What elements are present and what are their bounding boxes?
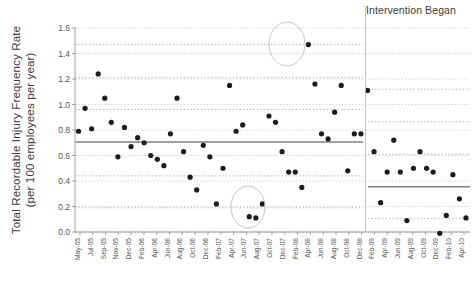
x-tick-label: Aug-08 — [330, 238, 338, 260]
data-point — [266, 113, 271, 118]
y-tick-label: 1.4 — [58, 49, 70, 59]
data-point — [437, 231, 442, 236]
data-point — [227, 83, 232, 88]
y-tick-label: 1.0 — [58, 100, 70, 110]
x-tick-label: Apr-10 — [458, 238, 466, 258]
data-point — [174, 96, 179, 101]
y-tick-label: 0.0 — [58, 227, 70, 237]
data-point — [306, 42, 311, 47]
data-point — [404, 218, 409, 223]
data-point — [181, 149, 186, 154]
x-tick-label: Oct-06 — [189, 238, 196, 258]
data-point — [312, 82, 317, 87]
x-tick-label: Dec-09 — [432, 238, 439, 260]
data-point — [450, 172, 455, 177]
data-point — [352, 131, 357, 136]
data-point — [168, 131, 173, 136]
x-tick-label: Aug-09 — [407, 238, 415, 260]
data-point — [128, 144, 133, 149]
x-tick-label: Apr-09 — [381, 238, 389, 258]
y-tick-label: 0.8 — [58, 125, 70, 135]
data-point — [109, 120, 114, 125]
x-tick-label: Apr-06 — [151, 238, 159, 258]
data-point — [398, 169, 403, 174]
y-tick-label: 0.4 — [58, 176, 70, 186]
y-tick-label: 1.2 — [58, 74, 70, 84]
x-tick-label: Dec-06 — [202, 238, 209, 260]
x-tick-label: Nov-05 — [112, 238, 119, 260]
data-point — [417, 149, 422, 154]
x-tick-label: Dec-08 — [356, 238, 363, 260]
data-point — [247, 214, 252, 219]
data-point — [371, 149, 376, 154]
data-point — [142, 140, 147, 145]
low-outlier-highlight — [231, 186, 265, 228]
data-point — [188, 175, 193, 180]
x-tick-label: Jun-06 — [164, 238, 171, 258]
data-point — [89, 126, 94, 131]
y-axis-title-line2: (per 100 employees per year) — [24, 52, 36, 207]
data-point — [220, 166, 225, 171]
x-tick-label: Feb-10 — [445, 238, 452, 259]
data-point — [286, 169, 291, 174]
data-point — [319, 131, 324, 136]
x-tick-label: Aug-07 — [253, 238, 261, 260]
x-tick-label: Dec-05 — [125, 238, 132, 260]
x-tick-label: Apr-07 — [228, 238, 236, 258]
data-point — [96, 71, 101, 76]
data-point — [194, 187, 199, 192]
x-axis-tick-labels: May-05Jul-05Sep-05Nov-05Dec-05Feb-06Apr-… — [74, 232, 466, 260]
y-tick-label: 1.6 — [58, 23, 70, 33]
x-tick-label: Oct-08 — [343, 238, 350, 258]
x-tick-label: Apr-08 — [304, 238, 312, 258]
y-tick-label: 0.6 — [58, 151, 70, 161]
data-point — [148, 153, 153, 158]
data-point — [457, 196, 462, 201]
data-point — [358, 131, 363, 136]
data-point — [411, 166, 416, 171]
data-point — [240, 122, 245, 127]
data-point — [385, 169, 390, 174]
data-point — [463, 215, 468, 220]
data-point — [431, 169, 436, 174]
data-point — [444, 213, 449, 218]
data-point — [299, 185, 304, 190]
data-point — [253, 215, 258, 220]
data-point — [214, 201, 219, 206]
data-point — [345, 168, 350, 173]
x-tick-label: Feb-08 — [292, 238, 299, 259]
y-axis-title-line1: Total Recordable Injury Frequency Rate — [10, 26, 22, 234]
x-tick-label: Dec-07 — [279, 238, 286, 260]
data-point — [391, 138, 396, 143]
data-point — [273, 120, 278, 125]
x-tick-label: Jun-08 — [317, 238, 324, 258]
data-point — [201, 143, 206, 148]
y-axis-tick-labels: 0.00.20.40.60.81.01.21.41.6 — [58, 23, 70, 237]
annotations-group: Intervention Began — [366, 4, 456, 16]
intervention-began-label: Intervention Began — [366, 4, 456, 16]
spc-chart-figure: 0.00.20.40.60.81.01.21.41.6 May-05Jul-05… — [0, 0, 474, 291]
x-tick-label: Oct-09 — [420, 238, 427, 258]
data-point — [280, 149, 285, 154]
gridlines-group — [75, 28, 470, 232]
data-point — [339, 83, 344, 88]
data-point — [82, 106, 87, 111]
x-tick-label: Feb-06 — [138, 238, 145, 259]
data-point — [122, 125, 127, 130]
x-tick-label: Oct-07 — [266, 238, 273, 258]
data-point — [234, 129, 239, 134]
x-tick-label: Jul-05 — [87, 238, 94, 256]
data-point — [378, 200, 383, 205]
x-tick-label: Aug-06 — [176, 238, 184, 260]
data-point — [115, 154, 120, 159]
data-point — [207, 154, 212, 159]
x-tick-label: Sep-05 — [100, 238, 108, 260]
high-outlier-highlight — [269, 22, 305, 66]
y-axis-title-group: Total Recordable Injury Frequency Rate(p… — [10, 26, 36, 234]
x-tick-label: Feb-07 — [215, 238, 222, 259]
data-point — [102, 96, 107, 101]
y-tick-label: 0.2 — [58, 202, 70, 212]
data-point — [332, 110, 337, 115]
data-point — [293, 169, 298, 174]
data-point — [325, 136, 330, 141]
